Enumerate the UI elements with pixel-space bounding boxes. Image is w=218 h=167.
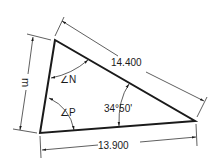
base-label: 13.900 [98, 140, 129, 151]
angle-n-marker: ∠N [51, 60, 88, 85]
base-dimension: 13.900 [40, 124, 197, 158]
hypotenuse-label: 14.400 [111, 57, 142, 68]
angle-p-marker: ∠P [49, 98, 76, 130]
triangle-outline [40, 40, 195, 133]
left-side-dimension: m [13, 34, 51, 133]
angle-right-marker: 34°50' [104, 84, 132, 126]
triangle-diagram: 14.400 m 13.900 ∠N ∠P 34°50' [0, 0, 218, 167]
angle-n-label: ∠N [60, 74, 76, 85]
left-side-label: m [20, 78, 32, 87]
angle-p-label: ∠P [60, 107, 76, 118]
hypotenuse-dimension: 14.400 [55, 17, 207, 117]
angle-right-label: 34°50' [104, 103, 132, 114]
